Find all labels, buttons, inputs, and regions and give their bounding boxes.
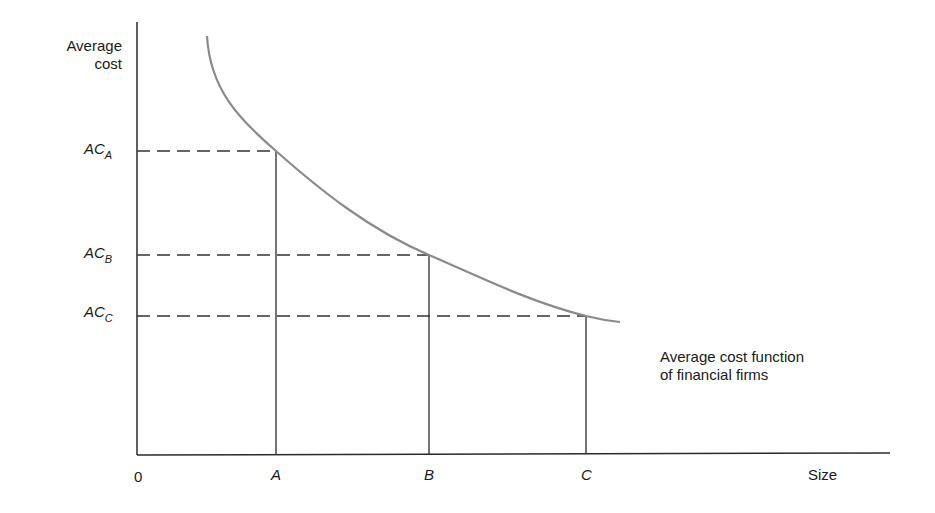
- y-axis-label: Average cost: [40, 37, 122, 73]
- average-cost-curve: [207, 36, 620, 322]
- y-axis-label-line2: cost: [40, 55, 122, 73]
- curve-annotation: Average cost function of financial firms: [660, 348, 804, 384]
- y-axis-label-line1: Average: [40, 37, 122, 55]
- x-tick-c: C: [581, 466, 592, 484]
- y-tick-ac-b-sub: B: [105, 253, 112, 265]
- x-axis-label: Size: [808, 466, 837, 484]
- y-tick-ac-a-sub: A: [105, 149, 112, 161]
- y-tick-ac-b-main: AC: [84, 244, 105, 261]
- y-tick-ac-c-sub: C: [105, 312, 113, 324]
- x-tick-a: A: [271, 466, 281, 484]
- x-axis: [137, 453, 890, 455]
- annotation-line1: Average cost function: [660, 348, 804, 366]
- y-tick-ac-c: ACC: [84, 303, 113, 322]
- x-tick-b: B: [424, 466, 434, 484]
- y-tick-ac-a: ACA: [84, 140, 112, 159]
- y-tick-ac-a-main: AC: [84, 140, 105, 157]
- origin-label: 0: [134, 468, 142, 486]
- y-tick-ac-b: ACB: [84, 244, 112, 263]
- chart-canvas: [0, 0, 935, 513]
- annotation-line2: of financial firms: [660, 366, 804, 384]
- y-tick-ac-c-main: AC: [84, 303, 105, 320]
